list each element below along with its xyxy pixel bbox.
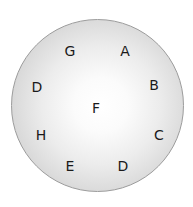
letter-d-bottom: D xyxy=(118,159,129,173)
letter-c: C xyxy=(154,128,164,142)
letter-e: E xyxy=(66,159,75,173)
letter-h: H xyxy=(36,128,47,142)
letter-b: B xyxy=(149,78,159,92)
letter-a: A xyxy=(120,44,130,58)
letter-d-left: D xyxy=(32,80,43,94)
letter-g: G xyxy=(65,44,76,58)
letter-f-center: F xyxy=(92,101,100,115)
